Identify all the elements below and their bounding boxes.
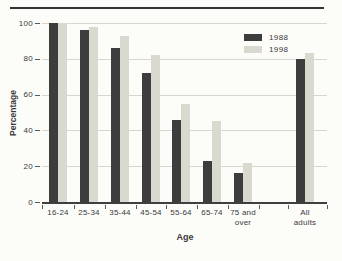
gridline-100: [42, 23, 327, 24]
bar-1998-5: [212, 121, 221, 202]
bar-1988-7: [296, 59, 305, 202]
legend-label-1988: 1988: [269, 33, 288, 42]
plot-area: 1988 1998: [42, 23, 327, 204]
y-tick-mark: [35, 202, 40, 203]
bar-1988-2: [111, 48, 120, 202]
y-tick-mark: [35, 95, 40, 96]
x-tick-label-3: 45-54: [140, 208, 161, 218]
legend-label-1998: 1998: [269, 45, 288, 54]
bar-1998-4: [181, 104, 190, 202]
bar-1998-1: [89, 27, 98, 202]
x-axis-tick: [327, 205, 328, 209]
x-tick-label-4: 55-64: [170, 208, 191, 218]
legend-item-1988: 1988: [244, 33, 288, 41]
y-tick-label-20: 20: [5, 162, 33, 171]
x-tick-label-6: 75 and over: [230, 208, 256, 227]
bar-1988-0: [49, 23, 58, 202]
x-tick-label-2: 35-44: [109, 208, 130, 218]
x-axis: 16-2425-3435-4445-5455-6465-7475 and ove…: [42, 208, 327, 232]
bar-1988-3: [142, 73, 151, 202]
y-tick-mark: [35, 23, 40, 24]
y-axis: 020406080100: [0, 23, 42, 202]
bar-1998-7: [305, 53, 314, 202]
figure-divider-rule: [10, 7, 324, 9]
x-tick-label-7: All adults: [294, 208, 317, 227]
x-tick-label-0: 16-24: [47, 208, 68, 218]
bar-1998-3: [151, 55, 160, 202]
y-tick-mark: [35, 130, 40, 131]
y-tick-mark: [35, 59, 40, 60]
bar-chart-figure: Percentage 020406080100 1988 1998 16-242…: [0, 0, 342, 261]
x-tick-label-1: 25-34: [78, 208, 99, 218]
legend-swatch-1998: [244, 46, 262, 53]
x-tick-label-5: 65-74: [201, 208, 222, 218]
y-tick-label-80: 80: [5, 54, 33, 63]
y-tick-label-100: 100: [5, 19, 33, 28]
bar-1998-2: [120, 36, 129, 202]
bar-1988-5: [203, 161, 212, 202]
bar-1988-6: [234, 173, 243, 202]
legend-item-1998: 1998: [244, 45, 288, 53]
y-tick-label-0: 0: [5, 198, 33, 207]
y-tick-label-60: 60: [5, 90, 33, 99]
y-tick-mark: [35, 166, 40, 167]
bar-1998-6: [243, 163, 252, 202]
y-tick-label-40: 40: [5, 126, 33, 135]
x-axis-title: Age: [160, 232, 210, 242]
legend: 1988 1998: [244, 33, 288, 57]
legend-swatch-1988: [244, 34, 262, 41]
bar-1998-0: [58, 23, 67, 202]
bar-1988-1: [80, 30, 89, 202]
bar-1988-4: [172, 120, 181, 202]
